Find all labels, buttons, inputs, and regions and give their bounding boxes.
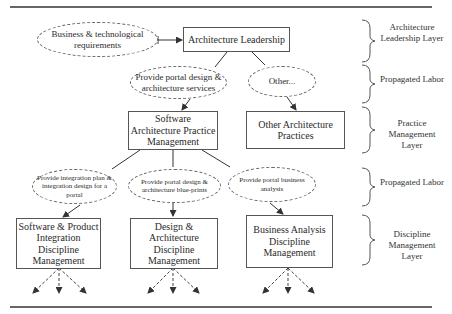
fan-2a bbox=[148, 268, 173, 293]
fan-3a bbox=[263, 268, 288, 293]
business-analysis-box: Business Analysis Discipline Management bbox=[246, 215, 333, 268]
arrow-integration-to-discipline bbox=[63, 205, 80, 217]
business-analysis-task-node: Provide portal business analysis bbox=[228, 167, 316, 202]
arrow-analysis-to-discipline bbox=[270, 203, 283, 214]
fan-3c bbox=[288, 268, 314, 293]
blueprints-node: Provide portal design & architecture blu… bbox=[128, 169, 221, 203]
design-architecture-box: Design & Architecture Discipline Managem… bbox=[130, 218, 218, 269]
fan-2c bbox=[173, 268, 199, 293]
layer-label-propagated-2: Propagated Labor bbox=[377, 177, 447, 188]
brace-discipline bbox=[362, 215, 375, 265]
brace-propagated-1 bbox=[362, 65, 375, 103]
requirements-node: Business & technological requirements bbox=[37, 22, 158, 57]
portal-services-node: Provide portal design & architecture ser… bbox=[130, 66, 227, 99]
line-leadership-to-other bbox=[252, 52, 265, 65]
brace-practice bbox=[362, 107, 375, 153]
line-practice-to-integration bbox=[112, 150, 140, 169]
arrow-services-to-practice bbox=[182, 99, 190, 110]
brace-propagated-2 bbox=[362, 168, 375, 206]
layer-label-leadership: Architecture Leadership Layer bbox=[377, 22, 447, 44]
fan-1c bbox=[59, 268, 86, 293]
line-practice-to-analysis bbox=[202, 150, 230, 167]
arrow-other-to-practices bbox=[287, 97, 296, 110]
layer-label-discipline: Discipline Management Layer bbox=[377, 229, 447, 261]
line-leadership-to-services bbox=[215, 52, 227, 67]
sw-product-integration-box: Software & Product Integration Disciplin… bbox=[16, 218, 101, 269]
layer-label-propagated-1: Propagated Labor bbox=[377, 74, 447, 85]
other-node: Other... bbox=[248, 66, 316, 97]
layer-label-practice: Practice Management Layer bbox=[377, 118, 447, 150]
architecture-leadership-box: Architecture Leadership bbox=[183, 27, 290, 52]
other-practices-box: Other Architecture Practices bbox=[246, 111, 345, 149]
fan-1a bbox=[33, 268, 59, 293]
integration-plan-node: Provide integration plan & integration d… bbox=[32, 169, 117, 204]
brace-leadership bbox=[362, 20, 375, 62]
sw-architecture-practice-box: Software Architecture Practice Managemen… bbox=[128, 111, 218, 150]
